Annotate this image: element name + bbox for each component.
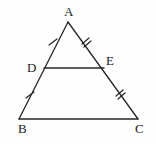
vertex-label-e: E xyxy=(106,54,114,67)
vertex-label-d: D xyxy=(27,61,36,74)
vertex-label-b: B xyxy=(18,122,27,135)
tick-mark-ad xyxy=(49,39,57,45)
vertex-label-a: A xyxy=(64,5,73,18)
geometry-figure: A B C D E xyxy=(0,0,156,144)
segment-ac xyxy=(68,22,138,119)
vertex-label-c: C xyxy=(135,122,144,135)
tick-mark-ae xyxy=(82,38,91,47)
